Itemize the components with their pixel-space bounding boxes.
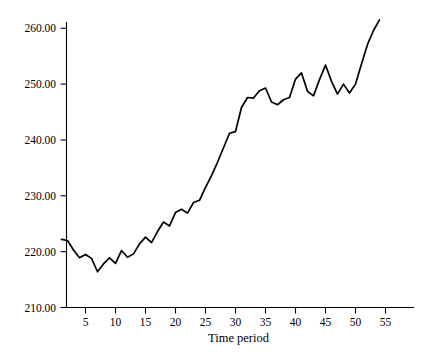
x-tick-label: 30 (230, 316, 242, 328)
x-tick-label: 15 (140, 316, 152, 328)
y-tick-label: 260.00 (24, 22, 56, 34)
chart-background (0, 0, 428, 355)
y-tick-label: 230.00 (24, 190, 56, 202)
line-chart: 210.00220.00230.00240.00250.00260.00 510… (0, 0, 428, 355)
x-tick-label: 5 (83, 316, 89, 328)
chart-container: 210.00220.00230.00240.00250.00260.00 510… (0, 0, 428, 355)
x-tick-label: 45 (320, 316, 332, 328)
x-tick-label: 25 (200, 316, 212, 328)
y-tick-label: 210.00 (24, 302, 56, 314)
y-tick-label: 220.00 (24, 246, 56, 258)
x-tick-label: 35 (260, 316, 272, 328)
x-tick-label: 50 (350, 316, 362, 328)
x-tick-label: 20 (170, 316, 182, 328)
x-tick-label: 55 (380, 316, 392, 328)
x-axis-title: Time period (208, 331, 270, 345)
y-tick-label: 250.00 (24, 78, 56, 90)
y-tick-label: 240.00 (24, 134, 56, 146)
x-tick-label: 10 (110, 316, 122, 328)
x-tick-label: 40 (290, 316, 302, 328)
